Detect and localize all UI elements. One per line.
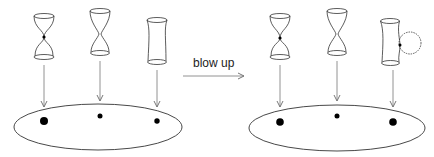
bubble-component <box>399 32 421 54</box>
base-point-large <box>276 118 284 126</box>
panel-after <box>249 9 425 152</box>
fiber-cylinder-with-bubble <box>381 19 422 66</box>
fiber-smooth-cylinder <box>147 18 167 65</box>
node-dot <box>399 44 402 47</box>
blow-up-label: blow up <box>193 56 235 70</box>
base-point-large <box>40 117 48 125</box>
base-point-large <box>389 118 397 126</box>
base-point-small <box>335 114 340 119</box>
base-point-medium <box>154 118 159 123</box>
fiber-hourglass <box>90 9 110 56</box>
fiber-pinched-node <box>34 14 54 60</box>
panel-before <box>14 9 182 151</box>
base-curve <box>249 105 425 151</box>
base-curve <box>14 104 182 150</box>
node-dot <box>278 36 281 39</box>
fiber-hourglass <box>327 9 347 56</box>
blow-up-arrow: blow up <box>183 56 244 76</box>
base-point-small <box>98 114 103 119</box>
fiber-pinched-node <box>270 14 290 60</box>
node-dot <box>42 35 45 38</box>
blow-up-diagram: blow up <box>0 0 434 157</box>
